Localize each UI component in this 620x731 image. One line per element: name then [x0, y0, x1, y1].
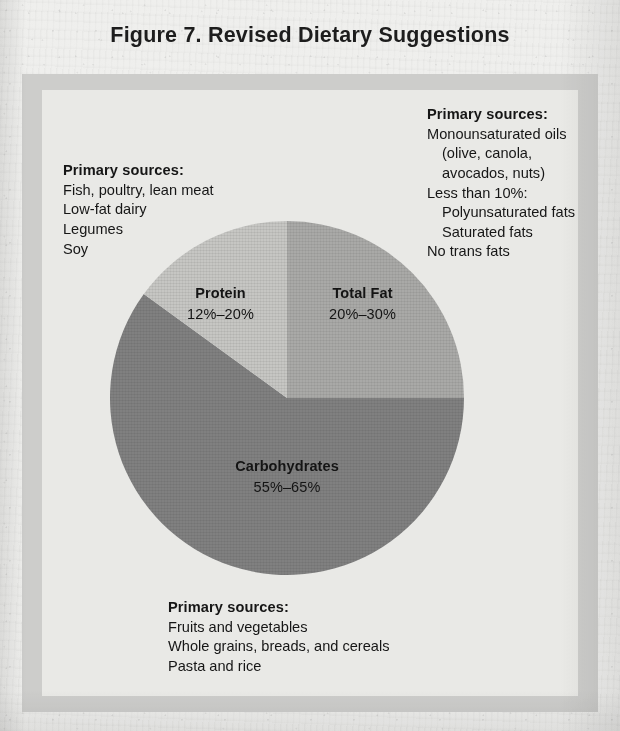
note-carbohydrates-line-3: Pasta and rice [168, 657, 458, 677]
pie-chart-svg [110, 221, 464, 575]
note-protein-line-1: Fish, poultry, lean meat [63, 181, 278, 201]
figure-title: Figure 7. Revised Dietary Suggestions [0, 23, 620, 48]
note-total-fat-line-1: Monounsaturated oils [427, 125, 617, 145]
pie-label-total-fat-value: 20%–30% [300, 304, 425, 325]
note-carbohydrates-line-2: Whole grains, breads, and cereals [168, 637, 458, 657]
pie-label-protein: Protein 12%–20% [158, 283, 283, 324]
pie-label-carbohydrates-value: 55%–65% [192, 477, 382, 498]
note-carbohydrates-heading: Primary sources: [168, 598, 458, 618]
note-protein-sources: Primary sources: Fish, poultry, lean mea… [63, 161, 278, 259]
pie-label-carbohydrates: Carbohydrates 55%–65% [192, 456, 382, 497]
note-protein-line-3: Legumes [63, 220, 278, 240]
note-total-fat-sources: Primary sources: Monounsaturated oils (o… [427, 105, 617, 262]
note-protein-heading: Primary sources: [63, 161, 278, 181]
note-total-fat-line-5: Polyunsaturated fats [427, 203, 617, 223]
note-total-fat-line-6: Saturated fats [427, 223, 617, 243]
note-protein-line-4: Soy [63, 240, 278, 260]
pie-chart [110, 221, 464, 575]
note-total-fat-line-3: avocados, nuts) [427, 164, 617, 184]
note-total-fat-line-2: (olive, canola, [427, 144, 617, 164]
pie-label-protein-name: Protein [158, 283, 283, 304]
pie-label-total-fat-name: Total Fat [300, 283, 425, 304]
note-total-fat-line-4: Less than 10%: [427, 184, 617, 204]
figure-root: Figure 7. Revised Dietary Suggestions Pr… [0, 0, 620, 731]
note-total-fat-line-7: No trans fats [427, 242, 617, 262]
note-carbohydrates-sources: Primary sources: Fruits and vegetables W… [168, 598, 458, 677]
pie-label-protein-value: 12%–20% [158, 304, 283, 325]
note-protein-line-2: Low-fat dairy [63, 200, 278, 220]
pie-label-total-fat: Total Fat 20%–30% [300, 283, 425, 324]
note-carbohydrates-line-1: Fruits and vegetables [168, 618, 458, 638]
note-total-fat-heading: Primary sources: [427, 105, 617, 125]
pie-label-carbohydrates-name: Carbohydrates [192, 456, 382, 477]
